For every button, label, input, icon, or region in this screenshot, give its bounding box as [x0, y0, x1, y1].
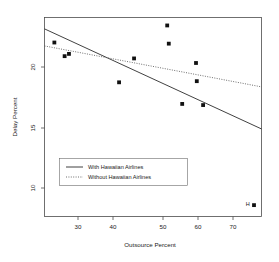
data-point	[132, 57, 136, 61]
data-point	[180, 102, 184, 106]
x-tick-label-30: 30	[75, 223, 82, 230]
x-axis-title: Outsource Percent	[124, 241, 176, 248]
x-tick-label-40: 40	[110, 223, 117, 230]
data-point	[167, 42, 171, 46]
y-axis-title: Delay Percent	[11, 97, 18, 136]
scatter-plot: 20 15 10 30 40 50 60 70 Outsource Percen…	[0, 0, 279, 262]
data-point	[165, 24, 169, 28]
data-point	[195, 79, 199, 83]
data-point	[67, 52, 71, 56]
point-annotations: H	[246, 201, 250, 207]
legend-box	[60, 159, 188, 186]
legend-label-without-hawaiian: Without Hawaiian Airlines	[88, 174, 151, 180]
y-tick-label-15: 15	[29, 124, 36, 131]
plot-background	[0, 0, 279, 262]
y-tick-label-20: 20	[29, 63, 36, 70]
legend-label-with-hawaiian: With Hawaiian Airlines	[88, 164, 144, 170]
chart-figure: 20 15 10 30 40 50 60 70 Outsource Percen…	[0, 0, 279, 262]
x-tick-label-70: 70	[230, 223, 237, 230]
legend: With Hawaiian Airlines Without Hawaiian …	[60, 159, 188, 186]
data-point	[63, 54, 67, 58]
data-point	[252, 203, 256, 207]
data-point	[194, 61, 198, 65]
x-tick-label-60: 60	[195, 223, 202, 230]
point-label-h: H	[246, 201, 250, 207]
data-point	[117, 80, 121, 84]
data-point	[201, 103, 205, 107]
data-point	[52, 41, 56, 45]
y-tick-label-10: 10	[29, 184, 36, 191]
x-tick-label-50: 50	[160, 223, 167, 230]
